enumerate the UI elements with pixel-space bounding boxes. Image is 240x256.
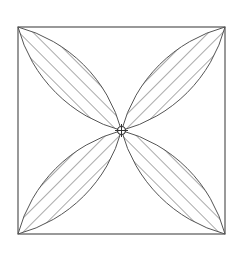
petal-bottom-left [18,131,122,235]
petal-top-right [122,27,226,131]
petal-top-left [18,27,122,131]
petal-bottom-right [122,131,226,235]
geometric-diagram [0,0,240,256]
